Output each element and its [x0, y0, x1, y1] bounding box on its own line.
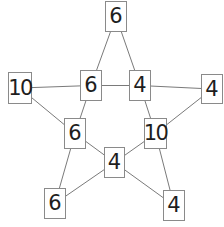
node-top: 6 [105, 1, 127, 32]
node-inner-lower-left: 6 [64, 118, 86, 149]
node-outer-bottom-left: 6 [44, 188, 66, 219]
node-outer-bottom-right: 4 [163, 190, 185, 221]
diagram-edges [0, 0, 224, 227]
node-inner-lower-right: 10 [144, 118, 167, 149]
node-outer-right: 4 [201, 74, 223, 104]
node-inner-left: 6 [80, 70, 102, 101]
node-outer-left: 10 [8, 72, 32, 104]
node-inner-bottom: 4 [104, 147, 125, 178]
node-inner-right: 4 [129, 70, 151, 101]
